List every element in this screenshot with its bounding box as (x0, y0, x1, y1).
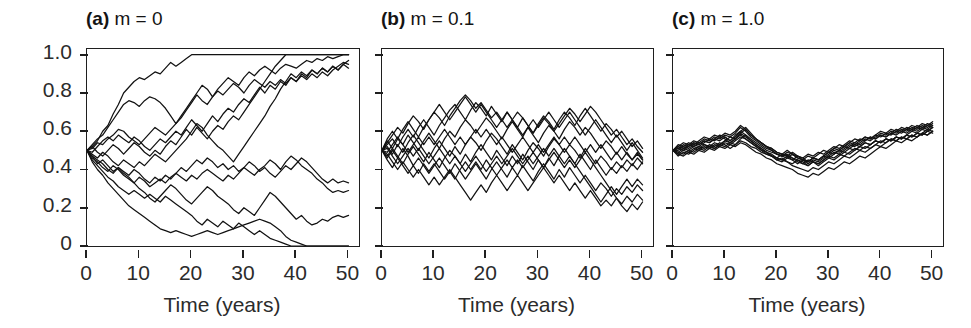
x-tick-label: 50 (907, 261, 957, 285)
x-tick-label: 10 (408, 261, 458, 285)
x-tick-label: 40 (855, 261, 905, 285)
panel-param: m = 1.0 (695, 8, 764, 29)
trajectory-line (87, 62, 349, 150)
x-tick (347, 250, 349, 258)
x-tick (85, 250, 87, 258)
x-tick-label: 0 (356, 261, 406, 285)
x-axis-label: Time (years) (86, 293, 358, 317)
trace-canvas (382, 49, 653, 246)
panel-tag: (b) (381, 8, 405, 29)
x-tick (775, 250, 777, 258)
y-tick-label: 0.8 (12, 78, 72, 102)
x-tick (641, 250, 643, 258)
panel-a: (a) m = 000.20.40.60.81.001020304050Time… (86, 0, 358, 328)
x-tick-label: 0 (647, 261, 697, 285)
panel-title: (c) m = 1.0 (672, 8, 764, 30)
x-tick-label: 10 (699, 261, 749, 285)
x-tick (432, 250, 434, 258)
panel-b: (b) m = 0.101020304050Time (years) (381, 0, 652, 328)
x-tick (931, 250, 933, 258)
x-tick (484, 250, 486, 258)
x-tick (723, 250, 725, 258)
y-tick-label: 0 (12, 231, 72, 255)
x-tick-label: 20 (166, 261, 216, 285)
x-tick (537, 250, 539, 258)
x-tick (138, 250, 140, 258)
y-tick-label: 0.6 (12, 116, 72, 140)
panel-param: m = 0.1 (405, 8, 474, 29)
y-tick-label: 1.0 (12, 40, 72, 64)
plot-frame (672, 48, 944, 247)
trace-canvas (673, 49, 943, 246)
panel-title: (a) m = 0 (86, 8, 163, 30)
x-axis-label: Time (years) (381, 293, 652, 317)
x-tick-label: 10 (113, 261, 163, 285)
panel-title: (b) m = 0.1 (381, 8, 474, 30)
x-tick (190, 250, 192, 258)
x-tick (294, 250, 296, 258)
trajectory-line (87, 55, 349, 151)
figure-panel-group: Frequency of species 1 (a) m = 000.20.40… (0, 0, 971, 328)
trajectory-line (673, 129, 933, 171)
x-tick (589, 250, 591, 258)
x-tick (242, 250, 244, 258)
x-tick (827, 250, 829, 258)
x-axis-label: Time (years) (672, 293, 942, 317)
trajectory-line (87, 150, 349, 183)
x-tick-label: 0 (61, 261, 111, 285)
x-tick-label: 30 (218, 261, 268, 285)
panel-param: m = 0 (109, 8, 162, 29)
trajectory-line (87, 150, 349, 192)
plot-frame (86, 48, 360, 247)
x-tick-label: 20 (751, 261, 801, 285)
trace-canvas (87, 49, 359, 246)
panel-tag: (c) (672, 8, 695, 29)
x-tick (879, 250, 881, 258)
x-tick-label: 40 (270, 261, 320, 285)
plot-frame (381, 48, 654, 247)
trajectory-line (673, 122, 933, 162)
y-tick-label: 0.2 (12, 193, 72, 217)
x-tick-label: 40 (564, 261, 614, 285)
x-tick (671, 250, 673, 258)
panel-tag: (a) (86, 8, 109, 29)
x-tick (380, 250, 382, 258)
x-tick-label: 20 (460, 261, 510, 285)
y-tick-label: 0.4 (12, 154, 72, 178)
x-tick-label: 30 (803, 261, 853, 285)
panel-c: (c) m = 1.001020304050Time (years) (672, 0, 942, 328)
x-tick-label: 30 (512, 261, 562, 285)
